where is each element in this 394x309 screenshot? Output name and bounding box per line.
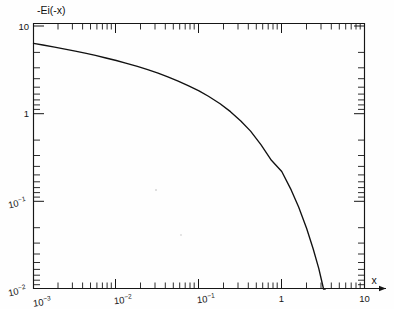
scan-speck-1: [155, 189, 157, 191]
x-tick-label-1-group: 10−2: [113, 292, 133, 306]
x-axis-title: x: [371, 274, 377, 286]
x-tick-label-2: 10−1: [196, 291, 216, 305]
x-tick-label-3: 1: [279, 293, 284, 304]
figure-panel: 10 1 10−1 10−2 10−3 10−2 10−1 1 10 -Ei(-…: [0, 0, 394, 309]
exponential-integral-plot: 10 1 10−1 10−2 10−3 10−2 10−1 1 10 -Ei(-…: [0, 0, 394, 309]
x-tick-label-4: 10: [359, 293, 370, 304]
x-tick-label-1: 10−2: [113, 292, 133, 306]
x-tick-label-2-group: 10−1: [196, 291, 216, 305]
y-tick-label-1: 1: [24, 108, 29, 119]
y-tick-label-3-group: 10−2: [7, 283, 28, 299]
y-axis-title: -Ei(-x): [37, 4, 66, 16]
y-tick-label-0: 10: [18, 21, 29, 32]
x-tick-label-0: 10−3: [32, 294, 52, 308]
x-axis-arrowhead: [379, 286, 386, 292]
y-tick-label-2-group: 10−1: [7, 195, 28, 211]
top-axis-ticks: [58, 24, 360, 34]
y-tick-label-2: 10−1: [7, 195, 28, 211]
data-curve-ei: [34, 43, 326, 289]
x-tick-label-0-group: 10−3: [32, 294, 52, 308]
scan-speck-2: [180, 234, 182, 236]
y-axis-ticks: [34, 26, 45, 285]
x-axis-ticks: [34, 279, 365, 289]
y-tick-label-3: 10−2: [7, 283, 28, 299]
right-axis-ticks: [354, 26, 365, 285]
